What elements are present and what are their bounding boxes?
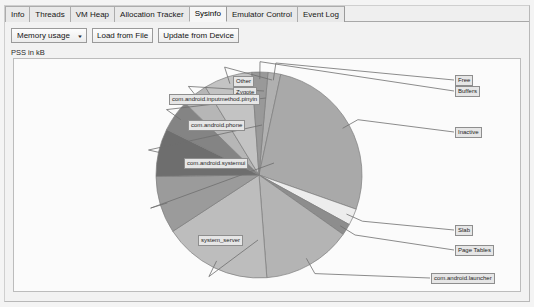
tab-label: Event Log xyxy=(303,11,339,19)
button-label: Update from Device xyxy=(163,31,234,40)
pie-chart xyxy=(14,59,521,292)
callout-pinyin[interactable]: com.android.inputmethod.pinyin xyxy=(169,94,260,105)
tab-label: Sysinfo xyxy=(195,10,221,18)
tab-event-log[interactable]: Event Log xyxy=(297,6,345,22)
ddms-sysinfo-window: Info Threads VM Heap Allocation Tracker … xyxy=(0,0,534,307)
leader-line xyxy=(347,214,455,230)
chart-type-value: Memory usage xyxy=(17,31,70,40)
callout-buffers[interactable]: Buffers xyxy=(455,86,480,97)
chevron-down-icon: ▼ xyxy=(77,33,83,38)
tab-bar-filler xyxy=(344,6,529,22)
tab-info[interactable]: Info xyxy=(5,6,30,22)
tab-label: Emulator Control xyxy=(232,11,292,19)
tab-sysinfo[interactable]: Sysinfo xyxy=(189,6,227,22)
tab-label: Allocation Tracker xyxy=(120,11,184,19)
tab-allocation-tracker[interactable]: Allocation Tracker xyxy=(114,6,190,22)
update-from-device-button[interactable]: Update from Device xyxy=(158,28,239,43)
button-label: Load from File xyxy=(97,31,148,40)
tab-label: Threads xyxy=(35,11,64,19)
tab-label: VM Heap xyxy=(76,11,109,19)
chart-type-select[interactable]: Memory usage ▼ xyxy=(11,28,87,43)
sysinfo-toolbar: Memory usage ▼ Load from File Update fro… xyxy=(11,28,239,43)
callout-systemui[interactable]: com.android.systemui xyxy=(184,158,248,169)
load-from-file-button[interactable]: Load from File xyxy=(92,28,153,43)
callout-free[interactable]: Free xyxy=(455,75,473,86)
callout-phone[interactable]: com.android.phone xyxy=(188,120,245,131)
callout-slab[interactable]: Slab xyxy=(455,225,473,236)
leader-line xyxy=(340,226,454,250)
chart-unit-label: PSS in kB xyxy=(11,48,45,57)
callout-inactive[interactable]: Inactive xyxy=(455,127,482,138)
leader-line xyxy=(306,258,430,278)
memory-usage-chart-panel: Other Zygote com.android.inputmethod.pin… xyxy=(13,58,521,292)
tab-emulator-control[interactable]: Emulator Control xyxy=(226,6,298,22)
callout-system-server[interactable]: system_server xyxy=(198,235,243,246)
tab-threads[interactable]: Threads xyxy=(29,6,70,22)
callout-other[interactable]: Other xyxy=(233,76,254,87)
tab-vm-heap[interactable]: VM Heap xyxy=(70,6,115,22)
callout-launcher[interactable]: com.android.launcher xyxy=(431,273,495,284)
tab-label: Info xyxy=(11,11,24,19)
leader-line xyxy=(343,120,454,132)
callout-page-tables[interactable]: Page Tables xyxy=(455,245,494,256)
tab-bar: Info Threads VM Heap Allocation Tracker … xyxy=(5,6,529,22)
